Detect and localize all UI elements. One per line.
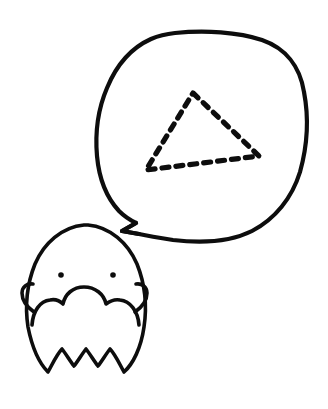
drawing-surface xyxy=(0,0,328,409)
canvas-background xyxy=(0,0,328,409)
illustration-canvas: Hand-drawn line illustration of a bald b… xyxy=(0,0,328,409)
right-eye-icon xyxy=(110,272,116,278)
left-eye-icon xyxy=(58,272,64,278)
